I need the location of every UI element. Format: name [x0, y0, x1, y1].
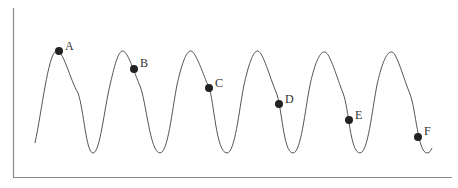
- point-marker-icon: [130, 65, 138, 73]
- point-marker-icon: [414, 133, 422, 141]
- point-label: F: [424, 124, 431, 138]
- point-label: D: [285, 92, 294, 106]
- point-label: E: [355, 108, 362, 122]
- point-label: B: [140, 56, 148, 70]
- point-marker-icon: [205, 84, 213, 92]
- point-marker-icon: [345, 116, 353, 124]
- point-marker-icon: [275, 100, 283, 108]
- wave-diagram: A B C D E F: [0, 0, 458, 188]
- point-a: A: [55, 39, 74, 55]
- point-label: C: [215, 76, 223, 90]
- point-label: A: [65, 39, 74, 53]
- point-b: B: [130, 56, 148, 73]
- wave-curve: [35, 51, 432, 153]
- point-marker-icon: [55, 47, 63, 55]
